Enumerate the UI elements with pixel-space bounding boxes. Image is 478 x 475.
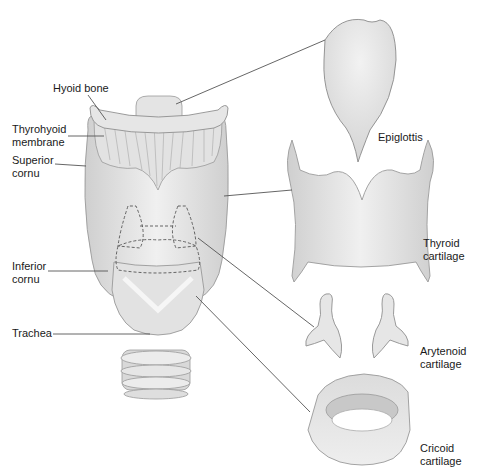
label-arytenoid-cartilage: Arytenoid cartilage	[420, 345, 466, 371]
label-epiglottis: Epiglottis	[378, 131, 423, 144]
label-cricoid-cartilage: Cricoid cartilage	[420, 442, 462, 468]
label-superior-cornu: Superior cornu	[12, 154, 54, 180]
trachea-rings	[121, 350, 191, 399]
label-thyroid-cartilage: Thyroid cartilage	[423, 237, 465, 263]
arytenoid-right-shape	[372, 294, 408, 358]
cricoid-front	[112, 262, 204, 335]
arytenoid-left-shape	[306, 294, 342, 358]
label-trachea: Trachea	[12, 327, 52, 340]
assembled-larynx	[85, 96, 228, 399]
cricoid-cartilage-shape	[308, 374, 410, 465]
label-thyrohyoid-membrane: Thyrohyoid membrane	[12, 123, 66, 149]
thyroid-cartilage-shape	[287, 140, 433, 282]
label-hyoid-bone: Hyoid bone	[53, 82, 109, 95]
label-inferior-cornu: Inferior cornu	[12, 260, 46, 286]
larynx-diagram	[0, 0, 478, 475]
